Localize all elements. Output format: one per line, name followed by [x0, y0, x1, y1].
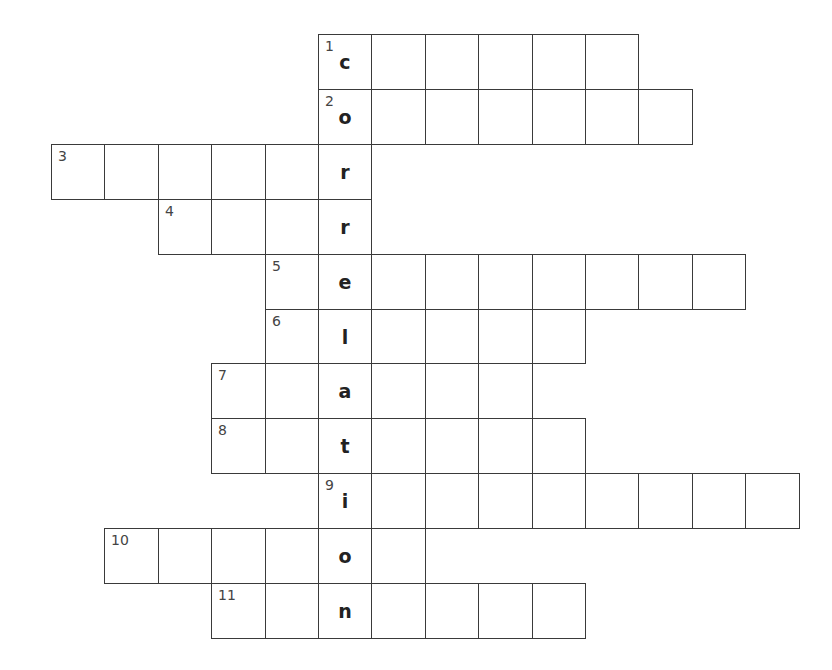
crossword-cell[interactable] — [158, 144, 212, 200]
crossword-cell[interactable] — [532, 418, 586, 474]
crossword-cell[interactable]: r — [318, 199, 372, 255]
crossword-cell[interactable] — [425, 309, 479, 364]
crossword-cell[interactable] — [265, 199, 319, 255]
key-letter: o — [319, 90, 371, 144]
crossword-cell[interactable] — [425, 418, 479, 474]
crossword-cell[interactable] — [532, 473, 586, 529]
crossword-cell[interactable]: 3 — [51, 144, 105, 200]
crossword-cell[interactable] — [478, 473, 533, 529]
crossword-cell[interactable]: r — [318, 144, 372, 200]
key-letter: n — [319, 584, 371, 638]
crossword-cell[interactable] — [371, 89, 426, 145]
crossword-cell[interactable] — [425, 473, 479, 529]
crossword-cell[interactable] — [585, 254, 639, 310]
clue-number: 5 — [272, 258, 281, 274]
crossword-cell[interactable] — [585, 89, 639, 145]
crossword-cell[interactable] — [692, 254, 746, 310]
crossword-cell[interactable]: 4 — [158, 199, 212, 255]
crossword-cell[interactable] — [532, 254, 586, 310]
crossword-cell[interactable]: 9i — [318, 473, 372, 529]
crossword-cell[interactable] — [692, 473, 746, 529]
crossword-cell[interactable]: 2o — [318, 89, 372, 145]
key-letter: r — [319, 200, 371, 254]
crossword-grid: 1c2o3r4r5e6l7a8t9i10o11n — [0, 0, 832, 670]
key-letter: r — [319, 145, 371, 199]
crossword-cell[interactable]: o — [318, 528, 372, 584]
clue-number: 10 — [111, 532, 129, 548]
crossword-cell[interactable] — [265, 363, 319, 419]
key-letter: t — [319, 419, 371, 473]
key-letter: l — [319, 310, 371, 363]
crossword-cell[interactable] — [532, 309, 586, 364]
crossword-cell[interactable] — [211, 144, 266, 200]
crossword-cell[interactable] — [371, 34, 426, 90]
crossword-cell[interactable] — [478, 418, 533, 474]
crossword-cell[interactable]: 1c — [318, 34, 372, 90]
crossword-cell[interactable] — [638, 89, 693, 145]
crossword-cell[interactable] — [371, 583, 426, 639]
crossword-cell[interactable] — [211, 528, 266, 584]
key-letter: a — [319, 364, 371, 418]
crossword-cell[interactable] — [265, 144, 319, 200]
clue-number: 11 — [218, 587, 236, 603]
crossword-cell[interactable] — [158, 528, 212, 584]
crossword-cell[interactable] — [638, 254, 693, 310]
crossword-cell[interactable] — [478, 34, 533, 90]
crossword-cell[interactable]: 11 — [211, 583, 266, 639]
crossword-cell[interactable] — [532, 89, 586, 145]
clue-number: 4 — [165, 203, 174, 219]
crossword-cell[interactable] — [211, 199, 266, 255]
crossword-cell[interactable]: 8 — [211, 418, 266, 474]
crossword-cell[interactable] — [478, 89, 533, 145]
crossword-cell[interactable] — [585, 34, 639, 90]
crossword-cell[interactable] — [265, 528, 319, 584]
crossword-cell[interactable] — [371, 473, 426, 529]
clue-number: 6 — [272, 313, 281, 329]
crossword-cell[interactable] — [638, 473, 693, 529]
crossword-cell[interactable]: t — [318, 418, 372, 474]
crossword-cell[interactable] — [532, 583, 586, 639]
key-letter: e — [319, 255, 371, 309]
crossword-cell[interactable]: 6 — [265, 309, 319, 364]
crossword-cell[interactable] — [532, 34, 586, 90]
clue-number: 7 — [218, 367, 227, 383]
crossword-cell[interactable]: n — [318, 583, 372, 639]
crossword-cell[interactable] — [265, 583, 319, 639]
key-letter: c — [319, 35, 371, 89]
crossword-cell[interactable] — [478, 583, 533, 639]
crossword-cell[interactable] — [265, 418, 319, 474]
crossword-cell[interactable] — [478, 309, 533, 364]
crossword-cell[interactable]: l — [318, 309, 372, 364]
crossword-cell[interactable]: a — [318, 363, 372, 419]
crossword-cell[interactable] — [104, 144, 159, 200]
key-letter: o — [319, 529, 371, 583]
crossword-cell[interactable] — [425, 89, 479, 145]
crossword-cell[interactable] — [478, 254, 533, 310]
crossword-cell[interactable] — [371, 363, 426, 419]
crossword-cell[interactable]: e — [318, 254, 372, 310]
crossword-cell[interactable] — [425, 34, 479, 90]
key-letter: i — [319, 474, 371, 528]
crossword-cell[interactable] — [371, 309, 426, 364]
crossword-cell[interactable] — [425, 254, 479, 310]
clue-number: 3 — [58, 148, 67, 164]
crossword-cell[interactable] — [371, 418, 426, 474]
crossword-cell[interactable] — [478, 363, 533, 419]
crossword-cell[interactable]: 10 — [104, 528, 159, 584]
crossword-cell[interactable]: 5 — [265, 254, 319, 310]
clue-number: 8 — [218, 422, 227, 438]
crossword-cell[interactable] — [371, 528, 426, 584]
crossword-cell[interactable] — [425, 363, 479, 419]
crossword-cell[interactable] — [371, 254, 426, 310]
crossword-cell[interactable] — [745, 473, 800, 529]
crossword-cell[interactable]: 7 — [211, 363, 266, 419]
crossword-cell[interactable] — [585, 473, 639, 529]
crossword-cell[interactable] — [425, 583, 479, 639]
